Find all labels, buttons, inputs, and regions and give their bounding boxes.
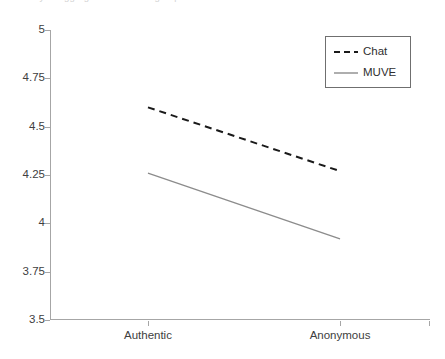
y-tick-label: 4.5	[29, 121, 45, 133]
legend-label-muve: MUVE	[363, 67, 396, 79]
y-tick-label: 3.75	[23, 266, 45, 278]
y-tick-label: 4.75	[23, 73, 45, 85]
x-tick-mark	[340, 321, 341, 326]
legend-entry-muve: MUVE	[333, 64, 406, 82]
x-tick-label: Authentic	[124, 330, 172, 342]
y-tick-mark	[45, 320, 50, 321]
dashed-line-swatch	[333, 46, 359, 58]
clipped-caption-text: ay of aggregate the across groups	[34, 0, 294, 3]
y-tick-label: 4.25	[23, 169, 45, 181]
solid-line-swatch	[333, 67, 359, 79]
y-tick-label: 4	[39, 218, 45, 230]
legend-entry-chat: Chat	[333, 43, 406, 61]
x-tick-mark	[148, 321, 149, 326]
x-tick-label: Anonymous	[310, 330, 371, 342]
line-chart-figure: ay of aggregate the across groups 54.754…	[0, 0, 445, 359]
chart-legend: Chat MUVE	[325, 36, 411, 88]
y-tick-label: 5	[39, 24, 45, 36]
legend-label-chat: Chat	[363, 46, 387, 58]
series-line-chat	[148, 107, 340, 171]
series-line-muve	[148, 173, 340, 239]
x-tick-mark	[429, 321, 430, 326]
y-tick-label: 3.5	[29, 314, 45, 326]
